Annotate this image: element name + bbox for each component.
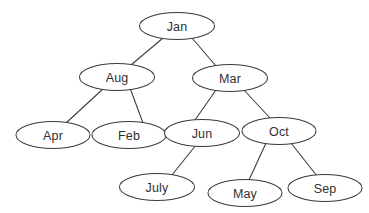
node-jan[interactable]: Jan bbox=[140, 13, 215, 40]
node-aug[interactable]: Aug bbox=[80, 64, 155, 91]
edges-layer bbox=[66, 38, 317, 180]
node-label-may: May bbox=[233, 187, 258, 201]
node-may[interactable]: May bbox=[208, 180, 282, 207]
node-label-feb: Feb bbox=[118, 129, 140, 143]
edge-aug-feb bbox=[130, 88, 143, 123]
node-july[interactable]: July bbox=[120, 174, 195, 201]
node-label-oct: Oct bbox=[269, 125, 289, 139]
node-oct[interactable]: Oct bbox=[242, 118, 316, 145]
node-mar[interactable]: Mar bbox=[193, 65, 268, 92]
edge-jun-july bbox=[172, 145, 196, 175]
edge-mar-jun bbox=[195, 90, 216, 120]
tree-diagram-canvas: JanAugMarAprFebJunOctJulyMaySep bbox=[0, 0, 369, 213]
node-label-aug: Aug bbox=[106, 71, 129, 85]
node-label-sep: Sep bbox=[314, 182, 337, 196]
node-apr[interactable]: Apr bbox=[16, 122, 90, 149]
edge-oct-sep bbox=[291, 143, 317, 176]
edge-jan-aug bbox=[131, 38, 163, 65]
node-label-july: July bbox=[146, 181, 169, 195]
tree-diagram: JanAugMarAprFebJunOctJulyMaySep bbox=[0, 0, 369, 213]
nodes-layer: JanAugMarAprFebJunOctJulyMaySep bbox=[16, 13, 362, 207]
node-label-jun: Jun bbox=[192, 127, 213, 141]
edge-mar-oct bbox=[244, 90, 270, 118]
node-label-jan: Jan bbox=[167, 20, 188, 34]
edge-oct-may bbox=[249, 143, 266, 180]
node-label-mar: Mar bbox=[219, 72, 241, 86]
node-label-apr: Apr bbox=[43, 129, 63, 143]
node-jun[interactable]: Jun bbox=[165, 120, 240, 147]
node-feb[interactable]: Feb bbox=[92, 122, 166, 149]
edge-jan-mar bbox=[192, 38, 216, 66]
edge-aug-apr bbox=[66, 88, 104, 123]
node-sep[interactable]: Sep bbox=[288, 175, 362, 202]
